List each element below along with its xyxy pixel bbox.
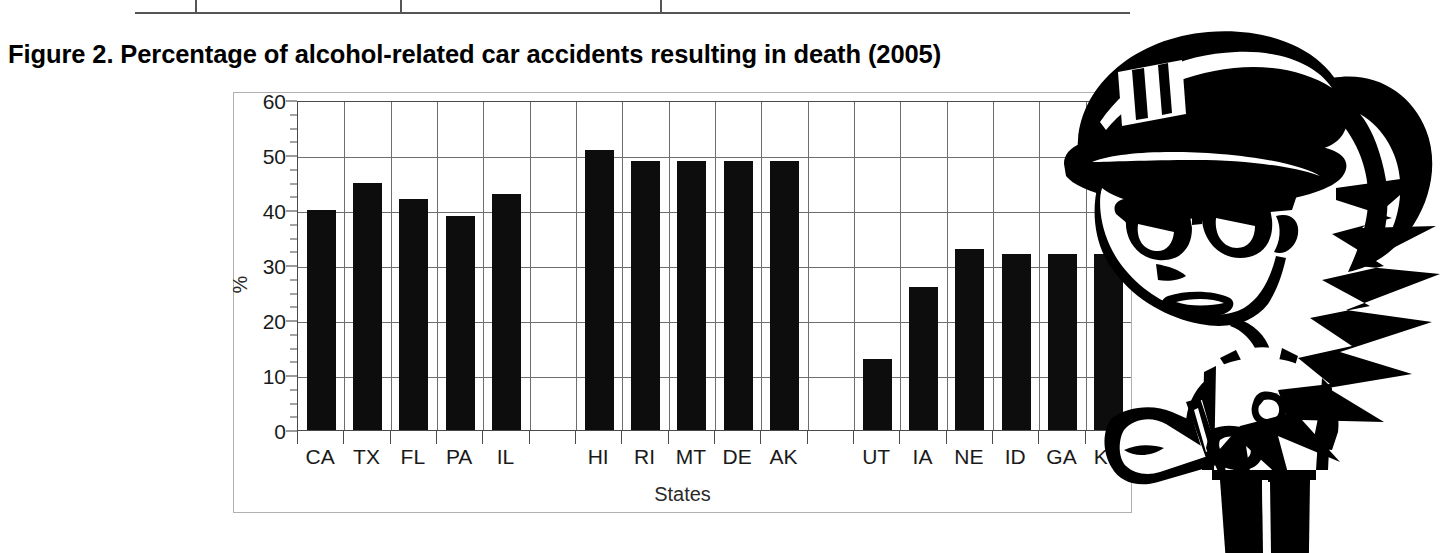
x-tick <box>760 431 761 444</box>
y-axis-title: % <box>229 276 252 294</box>
gridline-vertical-10 <box>761 102 762 430</box>
y-minor-tick <box>290 389 297 390</box>
x-tick-label-FL: FL <box>401 445 426 469</box>
y-tick-label-10: 10 <box>263 366 286 387</box>
x-tick <box>529 431 530 444</box>
x-tick-label-GA: GA <box>1046 445 1076 469</box>
bar-KY[interactable] <box>1094 254 1123 430</box>
y-minor-tick <box>290 362 297 363</box>
x-tick <box>1085 431 1086 444</box>
gridline-vertical-8 <box>669 102 670 430</box>
y-minor-tick <box>290 417 297 418</box>
x-tick-label-MT: MT <box>676 445 706 469</box>
bar-UT[interactable] <box>863 359 892 431</box>
y-minor-tick <box>290 279 297 280</box>
gridline-vertical-5 <box>530 102 531 430</box>
y-tick-label-60: 60 <box>263 91 286 112</box>
x-tick <box>946 431 947 444</box>
y-major-tick-20 <box>286 321 297 322</box>
gridline-vertical-4 <box>483 102 484 430</box>
y-minor-tick <box>290 334 297 335</box>
gridline-vertical-12 <box>854 102 855 430</box>
bar-NE[interactable] <box>955 249 984 431</box>
bar-PA[interactable] <box>446 216 475 431</box>
x-tick <box>1038 431 1039 444</box>
x-tick-label-KY: KY <box>1094 445 1122 469</box>
table-column-divider-3 <box>660 0 662 12</box>
x-tick <box>668 431 669 444</box>
gridline-vertical-11 <box>808 102 809 430</box>
y-minor-tick <box>290 348 297 349</box>
y-tick-label-20: 20 <box>263 311 286 332</box>
x-tick-label-TX: TX <box>353 445 380 469</box>
y-tick-label-30: 30 <box>263 256 286 277</box>
gridline-vertical-16 <box>1039 102 1040 430</box>
gridline-vertical-1 <box>344 102 345 430</box>
y-minor-tick <box>290 307 297 308</box>
x-tick-label-ID: ID <box>1005 445 1026 469</box>
y-minor-tick <box>290 128 297 129</box>
x-tick-label-DE: DE <box>723 445 752 469</box>
bar-GA[interactable] <box>1048 254 1077 430</box>
bar-HI[interactable] <box>585 150 614 431</box>
gridline-vertical-9 <box>715 102 716 430</box>
plot-area <box>297 101 1131 431</box>
bar-AK[interactable] <box>770 161 799 431</box>
bar-CA[interactable] <box>307 210 336 430</box>
bar-DE[interactable] <box>724 161 753 431</box>
y-minor-tick <box>290 142 297 143</box>
y-tick-label-50: 50 <box>263 146 286 167</box>
y-major-tick-40 <box>286 211 297 212</box>
x-tick-label-UT: UT <box>862 445 890 469</box>
x-tick <box>714 431 715 444</box>
chart-frame: 0102030405060 % States CATXFLPAILHIRIMTD… <box>233 92 1132 513</box>
bar-TX[interactable] <box>353 183 382 431</box>
y-minor-tick <box>290 224 297 225</box>
x-tick-label-CA: CA <box>306 445 335 469</box>
x-tick-label-NE: NE <box>954 445 983 469</box>
y-major-tick-60 <box>286 101 297 102</box>
gridline-vertical-17 <box>1086 102 1087 430</box>
x-tick-label-RI: RI <box>634 445 655 469</box>
x-tick <box>1131 431 1132 444</box>
x-tick <box>899 431 900 444</box>
gridline-vertical-14 <box>947 102 948 430</box>
x-tick-label-HI: HI <box>588 445 609 469</box>
x-tick <box>621 431 622 444</box>
bar-MT[interactable] <box>677 161 706 431</box>
x-tick <box>297 431 298 444</box>
bar-IA[interactable] <box>909 287 938 430</box>
bar-FL[interactable] <box>399 199 428 430</box>
x-tick-label-PA: PA <box>446 445 472 469</box>
y-minor-tick <box>290 403 297 404</box>
x-tick <box>390 431 391 444</box>
x-tick-label-IA: IA <box>913 445 933 469</box>
gridline-vertical-2 <box>391 102 392 430</box>
y-minor-tick <box>290 293 297 294</box>
x-tick-label-IL: IL <box>497 445 515 469</box>
table-column-divider-1 <box>195 0 197 12</box>
figure-caption: Figure 2. Percentage of alcohol-related … <box>8 40 941 69</box>
table-remnant <box>135 0 1130 14</box>
x-tick <box>575 431 576 444</box>
x-tick <box>807 431 808 444</box>
gridline-vertical-13 <box>900 102 901 430</box>
bar-IL[interactable] <box>492 194 521 431</box>
y-minor-tick <box>290 114 297 115</box>
bar-ID[interactable] <box>1002 254 1031 430</box>
x-tick <box>343 431 344 444</box>
gridline-vertical-7 <box>622 102 623 430</box>
y-major-tick-0 <box>286 431 297 432</box>
y-major-tick-10 <box>286 376 297 377</box>
y-major-tick-30 <box>286 266 297 267</box>
bar-RI[interactable] <box>631 161 660 431</box>
y-minor-tick <box>290 183 297 184</box>
x-tick-label-AK: AK <box>769 445 797 469</box>
x-tick <box>436 431 437 444</box>
x-axis-title: States <box>234 483 1131 506</box>
y-minor-tick <box>290 252 297 253</box>
x-tick <box>992 431 993 444</box>
y-minor-tick <box>290 169 297 170</box>
table-column-divider-2 <box>400 0 402 12</box>
y-minor-tick <box>290 238 297 239</box>
